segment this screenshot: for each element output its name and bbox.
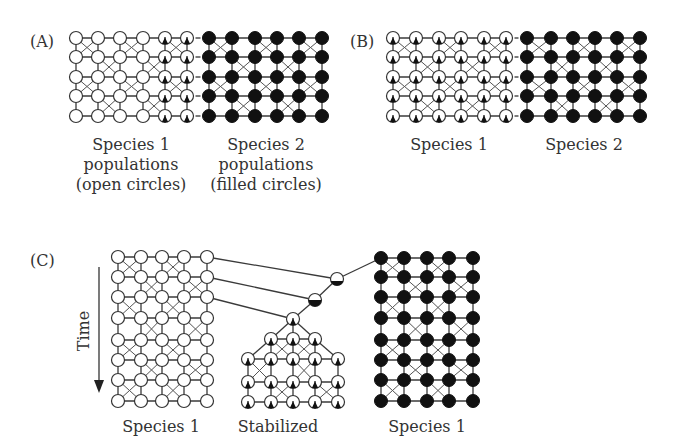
filled-population-node: [611, 110, 624, 123]
filled-population-node: [467, 312, 480, 325]
filled-population-node: [398, 334, 411, 347]
caption-a-species1-line1: Species 1: [92, 135, 170, 154]
filled-population-node: [611, 71, 624, 84]
open-population-node: [201, 251, 214, 264]
species-1-grid: [387, 32, 513, 123]
open-population-node: [112, 395, 125, 408]
filled-population-node: [375, 374, 388, 387]
caption-c-stabilized: Stabilized: [238, 417, 319, 436]
open-population-node: [178, 271, 191, 284]
open-population-node: [70, 90, 83, 103]
panel-label-b: (B): [350, 32, 374, 51]
open-population-node: [178, 312, 191, 325]
filled-population-node: [567, 110, 580, 123]
stabilized-hybrid-grid: [242, 313, 345, 409]
filled-population-node: [316, 110, 329, 123]
filled-population-node: [467, 395, 480, 408]
filled-population-node: [293, 90, 306, 103]
open-population-node: [114, 51, 127, 64]
open-population-node: [135, 312, 148, 325]
figure: (A) (B) (C) Time Species 1 populations (…: [0, 0, 673, 438]
filled-population-node: [611, 51, 624, 64]
filled-population-node: [398, 374, 411, 387]
filled-population-node: [293, 71, 306, 84]
open-population-node: [156, 251, 169, 264]
filled-population-node: [521, 110, 534, 123]
filled-population-node: [271, 90, 284, 103]
filled-population-node: [398, 252, 411, 265]
open-population-node: [112, 374, 125, 387]
filled-population-node: [271, 71, 284, 84]
filled-population-node: [467, 252, 480, 265]
open-population-node: [70, 32, 83, 45]
open-population-node: [201, 354, 214, 367]
filled-population-node: [467, 271, 480, 284]
hybridization-line: [207, 277, 315, 300]
filled-population-node: [316, 90, 329, 103]
filled-population-node: [249, 71, 262, 84]
filled-population-node: [467, 374, 480, 387]
open-population-node: [114, 71, 127, 84]
caption-b-species1: Species 1: [410, 135, 488, 154]
open-population-node: [112, 334, 125, 347]
open-population-node: [178, 374, 191, 387]
hybrid-node-1: [331, 273, 344, 286]
filled-population-node: [443, 271, 456, 284]
caption-a-species2-line2: populations: [219, 155, 314, 174]
species-2-grid: [521, 32, 647, 123]
open-population-node: [112, 291, 125, 304]
filled-population-node: [316, 71, 329, 84]
filled-population-node: [226, 90, 239, 103]
filled-population-node: [589, 90, 602, 103]
filled-population-node: [375, 291, 388, 304]
open-population-node: [201, 395, 214, 408]
open-population-node: [178, 251, 191, 264]
filled-population-node: [203, 32, 216, 45]
filled-population-node: [567, 71, 580, 84]
caption-a-species1-line3: (open circles): [76, 175, 187, 194]
caption-c-species1-open: Species 1: [122, 417, 200, 436]
open-population-node: [178, 291, 191, 304]
panel-c: Time: [74, 251, 480, 409]
open-population-node: [135, 334, 148, 347]
open-population-node: [178, 395, 191, 408]
open-population-node: [137, 32, 150, 45]
filled-population-node: [589, 110, 602, 123]
filled-population-node: [611, 90, 624, 103]
panel-label-a: (A): [30, 32, 54, 51]
open-population-node: [112, 271, 125, 284]
filled-population-node: [249, 110, 262, 123]
species-1-filled-grid: [375, 252, 480, 408]
open-population-node: [92, 71, 105, 84]
open-population-node: [135, 395, 148, 408]
filled-population-node: [421, 291, 434, 304]
caption-c-species1-filled: Species 1: [388, 417, 466, 436]
filled-population-node: [545, 32, 558, 45]
filled-population-node: [375, 271, 388, 284]
filled-population-node: [421, 252, 434, 265]
filled-population-node: [375, 354, 388, 367]
diagram-canvas: (A) (B) (C) Time Species 1 populations (…: [0, 0, 673, 438]
species-2-grid: [203, 32, 329, 123]
filled-population-node: [589, 32, 602, 45]
filled-population-node: [634, 51, 647, 64]
caption-a-species2-line1: Species 2: [227, 135, 305, 154]
filled-population-node: [443, 312, 456, 325]
filled-population-node: [611, 32, 624, 45]
filled-population-node: [226, 110, 239, 123]
filled-population-node: [443, 374, 456, 387]
open-population-node: [156, 291, 169, 304]
filled-population-node: [421, 354, 434, 367]
species-1-grid: [70, 32, 194, 123]
caption-a-species2-line3: (filled circles): [210, 175, 322, 194]
open-population-node: [201, 291, 214, 304]
open-population-node: [112, 312, 125, 325]
filled-population-node: [545, 71, 558, 84]
open-population-node: [137, 51, 150, 64]
captions: Species 1 populations (open circles) Spe…: [76, 135, 623, 436]
filled-population-node: [375, 395, 388, 408]
open-population-node: [201, 312, 214, 325]
filled-population-node: [398, 395, 411, 408]
filled-population-node: [545, 51, 558, 64]
open-population-node: [114, 110, 127, 123]
